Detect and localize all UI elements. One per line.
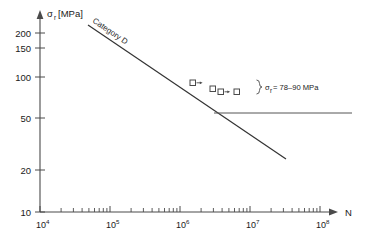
x-tick-label-1e7-exp: 7 — [256, 218, 260, 225]
data-marker-2 — [210, 86, 216, 92]
y-axis-title-units: [MPa] — [58, 8, 83, 19]
y-tick-labels: 200 150 100 50 20 10 — [15, 28, 31, 218]
y-axis-arrowhead — [37, 10, 44, 19]
scatter-markers-group — [190, 80, 240, 95]
category-d-curve — [88, 25, 286, 159]
y-axis-title: σ r [MPa] — [47, 8, 83, 21]
x-tick-label-1e4-base: 10 — [36, 220, 46, 230]
x-tick-label-1e8-exp: 8 — [326, 218, 330, 225]
annotation-brace — [257, 80, 263, 94]
y-tick-label-150: 150 — [15, 43, 31, 54]
y-axis-group — [37, 10, 44, 212]
x-axis-group — [40, 209, 338, 216]
y-axis-title-subscript: r — [54, 14, 57, 21]
x-tick-label-1e8-base: 10 — [316, 220, 326, 230]
data-marker-3 — [218, 89, 230, 95]
x-tick-label-1e7-base: 10 — [246, 220, 256, 230]
y-axis-title-sigma: σ — [47, 8, 53, 19]
y-tick-label-200: 200 — [15, 28, 31, 39]
x-axis-arrowhead — [329, 209, 338, 216]
sigma-range-annotation: σ r = 78–90 MPa — [257, 80, 320, 94]
x-minor-ticks — [61, 208, 317, 212]
data-marker-1 — [190, 80, 203, 86]
y-tick-label-50: 50 — [20, 113, 31, 124]
y-tick-label-100: 100 — [15, 72, 31, 83]
x-axis-title: N — [345, 207, 352, 218]
x-tick-label-1e6-base: 10 — [176, 220, 186, 230]
sn-curve-figure: 200 150 100 50 20 10 σ r [MPa] — [0, 0, 366, 248]
x-tick-label-1e4-exp: 4 — [46, 218, 50, 225]
y-tick-label-10: 10 — [20, 207, 31, 218]
x-tick-labels: 10 4 10 5 10 6 10 7 10 8 — [36, 218, 330, 230]
x-tick-label-1e5-base: 10 — [106, 220, 116, 230]
y-tick-label-20: 20 — [20, 165, 31, 176]
annotation-range-text: = 78–90 MPa — [273, 83, 319, 92]
data-marker-4 — [234, 89, 240, 95]
x-tick-label-1e6-exp: 6 — [186, 218, 190, 225]
chart-canvas: 200 150 100 50 20 10 σ r [MPa] — [0, 0, 366, 248]
x-tick-label-1e5-exp: 5 — [116, 218, 120, 225]
